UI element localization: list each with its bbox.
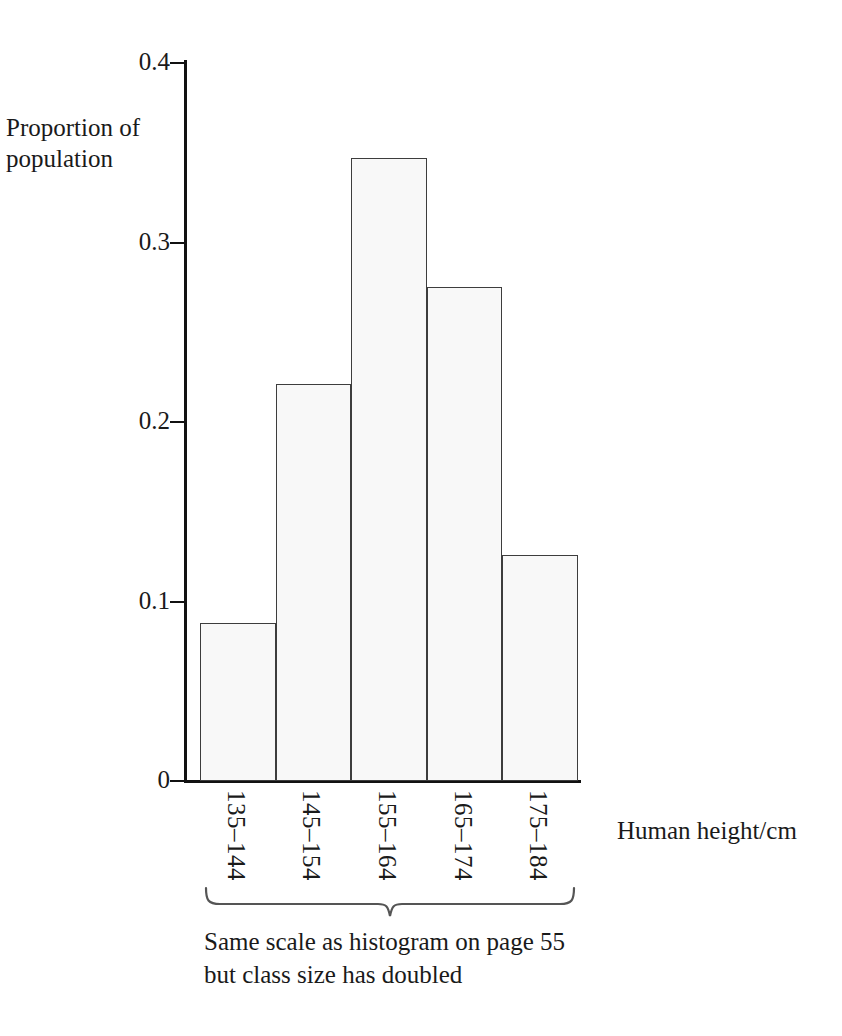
y-axis-tick-label: 0.3 xyxy=(60,229,170,254)
histogram-bar xyxy=(351,158,427,781)
x-axis-category-label: 155–164 xyxy=(375,790,400,881)
x-axis-category-label: 145–154 xyxy=(299,790,324,881)
histogram-bar xyxy=(502,555,578,781)
y-axis-tick-label-wrap: 0.3 xyxy=(60,242,170,244)
y-axis-title-line2: population xyxy=(6,144,171,175)
y-axis-tick-mark xyxy=(170,62,186,64)
y-axis-tick-label: 0.2 xyxy=(60,408,170,433)
y-axis-tick-label: 0 xyxy=(60,767,170,792)
y-axis-tick-label: 0.4 xyxy=(60,49,170,74)
y-axis-tick-label-wrap: 0 xyxy=(60,780,170,782)
figure-caption-line1: Same scale as histogram on page 55 xyxy=(204,925,664,958)
histogram-bar xyxy=(276,384,352,781)
y-axis-tick-mark xyxy=(170,242,186,244)
x-axis-title: Human height/cm xyxy=(617,818,797,843)
figure-caption-line2: but class size has doubled xyxy=(204,958,664,991)
x-axis-category-label: 135–144 xyxy=(224,790,249,881)
y-axis-title: Proportion of population xyxy=(6,113,171,174)
figure-caption: Same scale as histogram on page 55 but c… xyxy=(204,925,664,992)
y-axis-tick-label-wrap: 0.2 xyxy=(60,421,170,423)
brace-bracket xyxy=(200,886,580,920)
y-axis-tick-label-wrap: 0.4 xyxy=(60,62,170,64)
y-axis-title-line1: Proportion of xyxy=(6,113,171,144)
histogram-figure: Proportion of population 0.40.30.20.10 1… xyxy=(0,0,842,1036)
histogram-bar xyxy=(427,287,503,781)
y-axis-tick-label: 0.1 xyxy=(60,588,170,613)
plot-area xyxy=(200,60,578,781)
y-axis-tick-label-wrap: 0.1 xyxy=(60,601,170,603)
y-axis-tick-mark xyxy=(170,601,186,603)
x-axis-category-label: 165–174 xyxy=(451,790,476,881)
histogram-bar xyxy=(200,623,276,781)
x-axis-category-label: 175–184 xyxy=(526,790,551,881)
y-axis-tick-mark xyxy=(170,421,186,423)
